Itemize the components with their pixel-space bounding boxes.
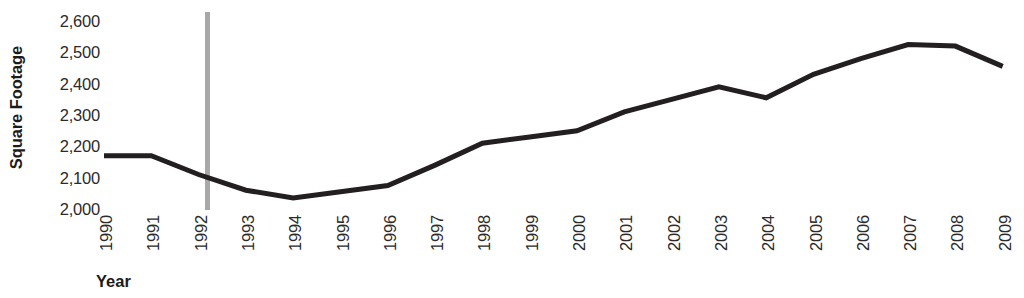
x-tick-label: 2002 (664, 215, 684, 273)
x-tick-label: 1997 (427, 215, 447, 273)
series-line-square-footage (104, 0, 1016, 215)
x-tick-label: 2004 (758, 215, 778, 273)
x-tick-label: 2009 (995, 215, 1015, 273)
y-tick-label: 2,600 (32, 13, 100, 30)
plot-area (104, 0, 1016, 215)
y-tick-label: 2,200 (32, 138, 100, 155)
x-tick-label: 2005 (806, 215, 826, 273)
x-axis-title: Year (96, 272, 131, 291)
y-tick-label: 2,400 (32, 75, 100, 92)
y-tick-label: 2,100 (32, 169, 100, 186)
y-axis-tick-labels: 2,6002,5002,4002,3002,2002,1002,000 (32, 0, 100, 298)
x-tick-label: 1992 (191, 215, 211, 273)
y-tick-label: 2,000 (32, 201, 100, 218)
x-axis-tick-labels: 1990199119921993199419951996199719981999… (104, 215, 1016, 273)
x-tick-label: 1999 (522, 215, 542, 273)
y-tick-label: 2,500 (32, 44, 100, 61)
x-tick-label: 1990 (96, 215, 116, 273)
x-tick-label: 2000 (569, 215, 589, 273)
x-tick-label: 1994 (285, 215, 305, 273)
x-tick-label: 1996 (380, 215, 400, 273)
x-tick-label: 1998 (474, 215, 494, 273)
x-tick-label: 1993 (238, 215, 258, 273)
x-tick-label: 2008 (947, 215, 967, 273)
x-tick-label: 2006 (853, 215, 873, 273)
x-tick-label: 2003 (711, 215, 731, 273)
y-tick-label: 2,300 (32, 107, 100, 124)
line-chart: Square Footage 2,6002,5002,4002,3002,200… (0, 0, 1024, 298)
x-tick-label: 1991 (143, 215, 163, 273)
y-axis-title-label: Square Footage (8, 46, 27, 169)
x-tick-label: 2007 (900, 215, 920, 273)
x-tick-label: 2001 (616, 215, 636, 273)
y-axis-title: Square Footage (0, 0, 34, 215)
x-tick-label: 1995 (333, 215, 353, 273)
